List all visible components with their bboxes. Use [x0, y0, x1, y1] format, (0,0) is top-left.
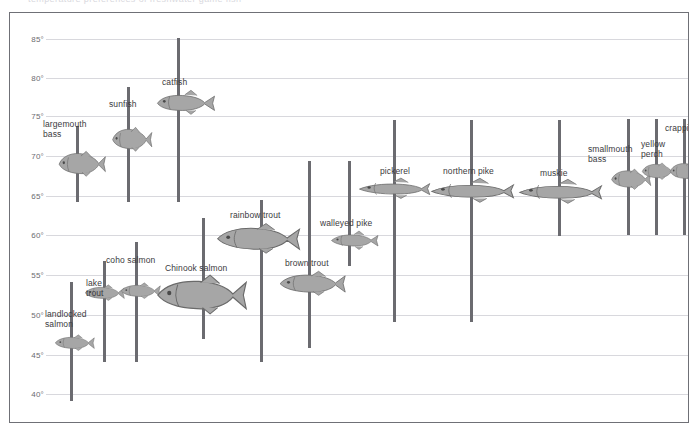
species-label-walleyed-pike: walleyed pike — [320, 218, 372, 228]
y-axis-tick-60: 60° — [12, 231, 44, 240]
gridline-55 — [46, 275, 688, 276]
species-label-largemouth-bass: largemouth bass — [43, 119, 87, 139]
fish-icon-walleyed-pike — [330, 230, 380, 250]
y-axis-tick-55: 55° — [12, 271, 44, 280]
fish-icon-chinook-salmon — [155, 273, 250, 315]
y-axis-tick-40: 40° — [12, 390, 44, 399]
fish-icon-northern-pike — [430, 177, 516, 203]
fish-icon-pickerel — [358, 177, 432, 199]
species-label-chinook-salmon: Chinook salmon — [165, 263, 227, 273]
gridline-40 — [46, 394, 688, 395]
y-axis-tick-75: 75° — [12, 112, 44, 121]
fish-icon-rainbow-trout — [215, 222, 303, 254]
species-label-landlocked-salmon: landlocked salmon — [45, 309, 87, 329]
plot-area: 85°80°75°70°65°60°55°50°45°40°largemouth… — [10, 13, 688, 422]
range-bar-catfish[interactable] — [177, 38, 180, 202]
range-bar-walleyed-pike[interactable] — [348, 161, 351, 266]
fish-icon-muskie — [518, 178, 604, 204]
species-label-lake-trout: lake trout — [86, 278, 104, 298]
gridline-85 — [46, 39, 688, 40]
fish-icon-largemouth-bass — [56, 150, 108, 177]
y-axis-tick-80: 80° — [12, 74, 44, 83]
species-label-sunfish: sunfish — [109, 99, 137, 109]
species-label-rainbow-trout: rainbow trout — [230, 210, 280, 220]
fish-icon-landlocked-salmon — [54, 334, 96, 351]
species-label-brown-trout: brown trout — [285, 258, 329, 268]
gridline-75 — [46, 116, 688, 117]
gridline-45 — [46, 355, 688, 356]
fish-icon-catfish — [155, 89, 217, 115]
species-label-catfish: catfish — [162, 77, 187, 87]
range-bar-lake-trout[interactable] — [103, 261, 106, 362]
fish-icon-crappie — [668, 161, 688, 181]
species-label-northern-pike: northern pike — [443, 166, 494, 176]
species-label-coho-salmon: coho salmon — [106, 255, 155, 265]
y-axis-tick-85: 85° — [12, 35, 44, 44]
y-axis-tick-70: 70° — [12, 152, 44, 161]
chart-page: temperature preferences of freshwater ga… — [0, 0, 698, 432]
clipped-header-text: temperature preferences of freshwater ga… — [28, 0, 241, 4]
species-label-yellow-perch: yellow perch — [641, 139, 665, 159]
species-label-muskie: muskie — [540, 168, 568, 178]
species-label-pickerel: pickerel — [380, 166, 410, 176]
species-label-crappie: crappie — [665, 123, 688, 133]
gridline-80 — [46, 78, 688, 79]
y-axis-tick-50: 50° — [12, 311, 44, 320]
gridline-50 — [46, 315, 688, 316]
range-bar-pickerel[interactable] — [393, 120, 396, 322]
range-bar-brown-trout[interactable] — [308, 161, 311, 348]
y-axis-tick-45: 45° — [12, 351, 44, 360]
fish-icon-brown-trout — [278, 270, 348, 296]
fish-icon-sunfish — [110, 126, 154, 152]
species-label-smallmouth-bass: smallmouth bass — [588, 144, 632, 164]
clipped-header-strip: temperature preferences of freshwater ga… — [0, 0, 698, 11]
range-bar-northern-pike[interactable] — [470, 120, 473, 322]
chart-frame: 85°80°75°70°65°60°55°50°45°40°largemouth… — [9, 12, 689, 423]
y-axis-tick-65: 65° — [12, 192, 44, 201]
